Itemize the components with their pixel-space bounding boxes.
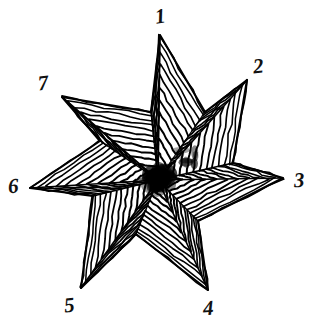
center-ink-smudge xyxy=(183,156,189,167)
point-label-6: 6 xyxy=(7,176,19,198)
point-label-3: 3 xyxy=(293,170,305,192)
center-ink-smudge xyxy=(191,158,198,170)
center-ink-blob xyxy=(149,167,160,189)
point-label-2: 2 xyxy=(252,56,265,78)
center-ink-smudge xyxy=(191,145,198,160)
center-ink-smudge xyxy=(172,147,190,153)
figure-canvas: 1 2 3 4 5 6 7 xyxy=(0,0,316,333)
point-label-5: 5 xyxy=(63,295,76,317)
seven-pointed-star-drawing xyxy=(0,0,316,333)
point-label-4: 4 xyxy=(202,298,214,320)
point-label-7: 7 xyxy=(37,72,50,94)
